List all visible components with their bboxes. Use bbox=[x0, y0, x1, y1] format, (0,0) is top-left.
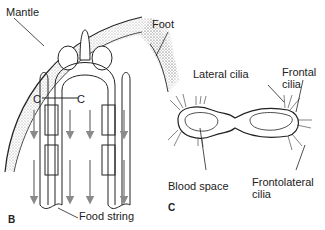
label-food-string: Food string bbox=[79, 210, 134, 222]
food-string-pointer bbox=[58, 208, 78, 218]
gill-diagram bbox=[0, 0, 325, 230]
label-frontolateral-line1: Frontolateral bbox=[252, 176, 314, 188]
label-lateral-cilia: Lateral cilia bbox=[193, 68, 249, 80]
label-blood-space: Blood space bbox=[168, 180, 229, 192]
cross-section bbox=[178, 107, 299, 138]
panel-label-b: B bbox=[8, 214, 15, 226]
label-foot: Foot bbox=[152, 18, 174, 30]
label-section-left: C bbox=[33, 93, 41, 105]
panel-label-c: C bbox=[168, 202, 175, 214]
label-frontal-line2: cilia bbox=[282, 78, 301, 90]
label-section-right: C bbox=[77, 93, 85, 105]
label-frontal-line1: Frontal bbox=[282, 66, 316, 78]
label-frontolateral-line2: cilia bbox=[252, 188, 271, 200]
label-mantle: Mantle bbox=[6, 6, 39, 18]
